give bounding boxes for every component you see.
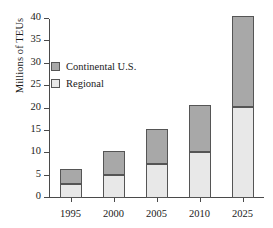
bar-segment-continental[interactable]	[232, 16, 254, 107]
bar-segment-regional[interactable]	[103, 175, 125, 198]
plot-area: 0510152025303540 19952000200520102025	[49, 19, 264, 198]
legend-swatch-continental-icon	[51, 62, 60, 71]
bar-group[interactable]	[60, 169, 82, 198]
bar-segment-continental[interactable]	[60, 169, 82, 183]
legend-item-continental: Continental U.S.	[51, 58, 136, 75]
y-tick: 35	[44, 40, 49, 41]
bar-segment-continental[interactable]	[103, 151, 125, 175]
stacked-bar-chart: Millions of TEUs 0510152025303540 199520…	[0, 0, 273, 228]
y-axis-title: Millions of TEUs	[14, 0, 25, 131]
x-tick	[157, 198, 158, 202]
y-tick-label: 30	[31, 56, 42, 67]
bar-segment-regional[interactable]	[60, 184, 82, 198]
x-tick	[243, 198, 244, 202]
x-tick-label: 2005	[146, 208, 167, 219]
y-tick-label: 15	[31, 123, 42, 134]
x-tick	[114, 198, 115, 202]
y-tick-label: 0	[36, 190, 41, 201]
legend-label-continental: Continental U.S.	[66, 61, 136, 72]
y-tick: 30	[44, 63, 49, 64]
legend-swatch-regional-icon	[51, 79, 60, 88]
x-tick	[71, 198, 72, 202]
y-tick-label: 25	[31, 78, 42, 89]
y-tick: 10	[44, 152, 49, 153]
y-tick-label: 5	[36, 168, 41, 179]
bar-group[interactable]	[146, 129, 168, 198]
y-tick-label: 40	[31, 11, 42, 22]
bar-segment-regional[interactable]	[189, 152, 211, 198]
bar-segment-continental[interactable]	[146, 129, 168, 164]
y-tick: 15	[44, 130, 49, 131]
x-tick-label: 1995	[60, 208, 81, 219]
bar-segment-continental[interactable]	[189, 105, 211, 152]
y-axis-line	[49, 19, 50, 198]
bar-group[interactable]	[189, 105, 211, 198]
y-tick: 40	[44, 18, 49, 19]
x-tick-label: 2010	[189, 208, 210, 219]
bar-group[interactable]	[103, 151, 125, 198]
y-tick: 25	[44, 85, 49, 86]
y-tick-label: 10	[31, 145, 42, 156]
x-tick-label: 2025	[232, 208, 253, 219]
y-tick: 0	[44, 197, 49, 198]
bar-segment-regional[interactable]	[232, 107, 254, 198]
y-tick: 5	[44, 175, 49, 176]
y-tick-label: 20	[31, 101, 42, 112]
y-tick: 20	[44, 108, 49, 109]
legend: Continental U.S. Regional	[51, 58, 136, 92]
x-tick	[200, 198, 201, 202]
x-tick-label: 2000	[103, 208, 124, 219]
bar-group[interactable]	[232, 16, 254, 198]
bar-segment-regional[interactable]	[146, 164, 168, 198]
legend-item-regional: Regional	[51, 75, 136, 92]
y-tick-label: 35	[31, 33, 42, 44]
legend-label-regional: Regional	[66, 78, 104, 89]
